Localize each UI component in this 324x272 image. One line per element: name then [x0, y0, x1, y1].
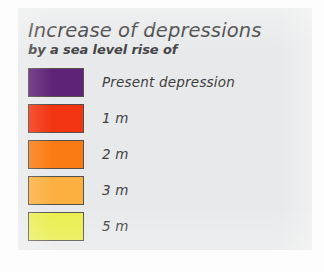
- swatch-3m: [28, 176, 84, 205]
- legend-entry-label: 2 m: [102, 146, 129, 162]
- legend-screenshot: Increase of depressions by a sea level r…: [0, 0, 324, 272]
- swatch-5m: [28, 212, 84, 241]
- legend-subtitle: by a sea level rise of: [28, 42, 304, 57]
- swatch-2m: [28, 140, 84, 169]
- legend-entry-list: Present depression1 m2 m3 m5 m: [28, 64, 304, 244]
- legend-entry: 2 m: [28, 136, 304, 172]
- legend-entry-label: 5 m: [102, 218, 129, 234]
- legend-entry: Present depression: [28, 64, 304, 100]
- legend-entry: 3 m: [28, 172, 304, 208]
- swatch-1m: [28, 104, 84, 133]
- legend-panel: Increase of depressions by a sea level r…: [18, 8, 312, 250]
- legend-entry: 5 m: [28, 208, 304, 244]
- legend-content: Increase of depressions by a sea level r…: [28, 20, 304, 244]
- legend-entry: 1 m: [28, 100, 304, 136]
- legend-entry-label: Present depression: [102, 74, 235, 90]
- legend-title: Increase of depressions: [28, 20, 304, 41]
- legend-entry-label: 1 m: [102, 110, 129, 126]
- swatch-present-depression: [28, 68, 84, 97]
- legend-entry-label: 3 m: [102, 182, 129, 198]
